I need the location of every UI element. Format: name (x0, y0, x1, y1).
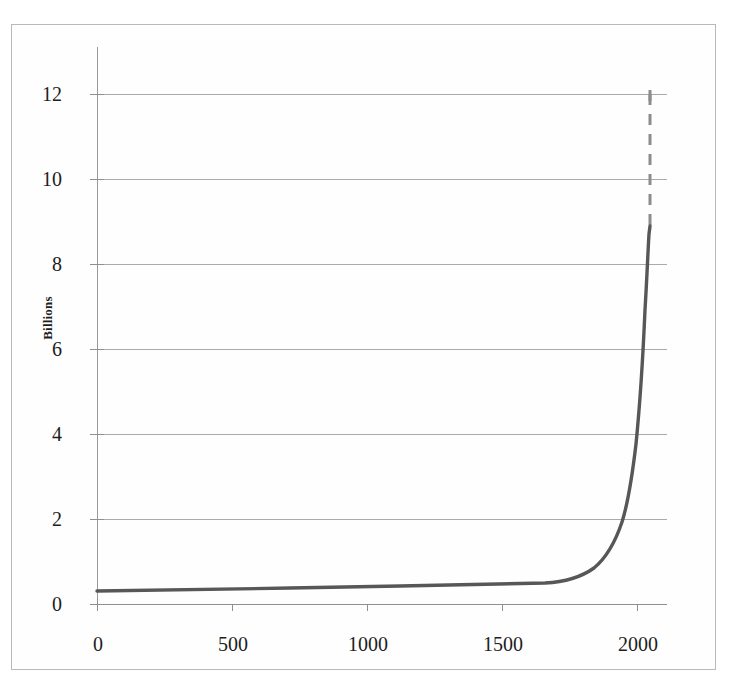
population-curve (97, 226, 650, 591)
x-tick-label-1000: 1000 (323, 634, 413, 654)
chart-figure: Billions 12 10 8 6 4 2 0 0 500 1000 1500… (0, 0, 731, 697)
x-tick-label-500: 500 (188, 634, 278, 654)
y-tick-label-2: 2 (22, 509, 62, 529)
chart-plot-area (0, 0, 731, 697)
y-tick-label-4: 4 (22, 424, 62, 444)
x-tick-label-0: 0 (53, 634, 143, 654)
y-tick-label-12: 12 (22, 84, 62, 104)
x-tick-label-1500: 1500 (458, 634, 548, 654)
x-tick-label-2000: 2000 (593, 634, 683, 654)
y-tick-label-6: 6 (22, 339, 62, 359)
y-tick-label-0: 0 (22, 594, 62, 614)
y-tick-label-8: 8 (22, 254, 62, 274)
y-tick-label-10: 10 (22, 169, 62, 189)
gridlines-horizontal (97, 95, 667, 520)
